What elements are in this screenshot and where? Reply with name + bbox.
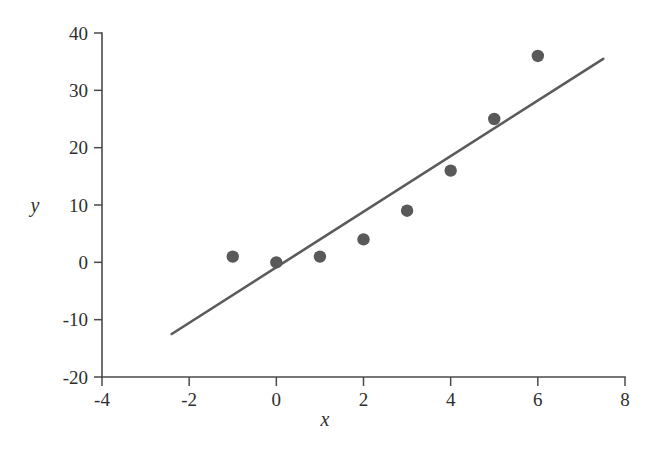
y-tick-label: -10	[63, 309, 88, 330]
y-axis-title: y	[29, 194, 40, 217]
x-tick-label: -2	[181, 389, 197, 410]
data-point	[488, 113, 500, 125]
plot-canvas: -20-10010203040 -4-202468 x y	[0, 0, 658, 453]
scatter-plot-figure: -20-10010203040 -4-202468 x y	[0, 0, 658, 453]
data-point	[270, 256, 282, 268]
data-point	[314, 250, 326, 262]
y-tick-label: 30	[69, 80, 88, 101]
x-tick-label: 2	[359, 389, 369, 410]
y-tick-label: 10	[69, 195, 88, 216]
data-point	[401, 205, 413, 217]
x-tick-label: 4	[446, 389, 456, 410]
x-tick-label: -4	[94, 389, 110, 410]
data-point	[357, 233, 369, 245]
x-tick-label: 6	[533, 389, 543, 410]
y-tick-label: 20	[69, 137, 88, 158]
x-tick-label: 0	[272, 389, 282, 410]
data-point	[532, 50, 544, 62]
x-tick-label: 8	[620, 389, 630, 410]
data-point	[227, 250, 239, 262]
data-point	[444, 164, 456, 176]
y-tick-label: 40	[69, 23, 88, 44]
y-tick-label: 0	[79, 252, 89, 273]
x-axis-title: x	[320, 408, 330, 430]
plot-background	[0, 0, 658, 453]
y-tick-label: -20	[63, 367, 88, 388]
